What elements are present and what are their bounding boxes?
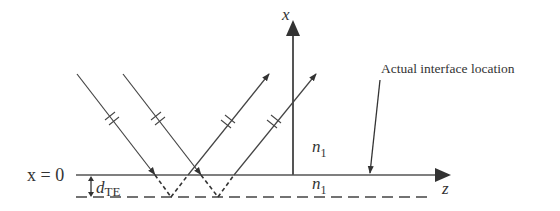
annotation-pointer-arrow [370,80,380,173]
reflected-ray-2-penetration [218,175,234,197]
lower-medium-label: n1 [312,174,327,197]
annotation-text: Actual interface location [381,61,515,76]
incident-ray-1 [77,74,155,175]
goos-hanchen-shift-diagram: x z x = 0 dTE n1 n1 Actual interface loc… [0,0,560,211]
incident-ray-2 [123,74,201,175]
ray-tick-marks [105,112,281,128]
incident-ray-2-penetration [201,175,218,197]
depth-label: dTE [96,178,120,199]
z-axis-label: z [441,179,449,198]
incident-ray-1-penetration [155,175,171,197]
reflected-ray-1-penetration [171,175,188,197]
x-axis-label: x [281,5,290,24]
upper-medium-label: n1 [312,137,327,160]
reflected-ray-2 [234,74,316,175]
interface-label: x = 0 [27,165,64,185]
reflected-ray-1 [188,74,269,175]
